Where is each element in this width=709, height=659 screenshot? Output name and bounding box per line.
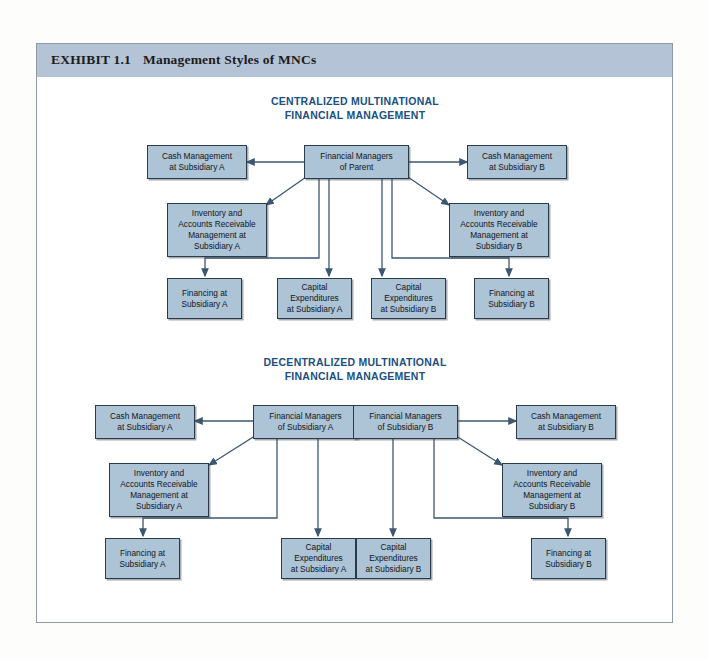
decentralized-section-heading: DECENTRALIZED MULTINATIONAL FINANCIAL MA… [205, 355, 505, 383]
arrow-mgr-b-to-inv-b [453, 434, 502, 465]
node-centralized-cash-management-subsidiary-a[interactable]: Cash Management at Subsidiary A [147, 145, 247, 179]
node-centralized-financing-subsidiary-a[interactable]: Financing at Subsidiary A [167, 278, 242, 319]
node-decentralized-financing-subsidiary-b[interactable]: Financing at Subsidiary B [531, 538, 606, 579]
node-centralized-inventory-ar-subsidiary-b[interactable]: Inventory and Accounts Receivable Manage… [449, 203, 549, 257]
node-decentralized-financial-managers-subsidiary-b[interactable]: Financial Managers of Subsidiary B [353, 405, 458, 439]
node-decentralized-financial-managers-subsidiary-a[interactable]: Financial Managers of Subsidiary A [253, 405, 358, 439]
arrow-parent-to-inv-a [266, 175, 309, 205]
node-decentralized-financing-subsidiary-a[interactable]: Financing at Subsidiary A [105, 538, 180, 579]
exhibit-frame: EXHIBIT 1.1Management Styles of MNCs [36, 43, 673, 623]
arrow-parent-to-inv-b [405, 175, 449, 205]
node-decentralized-cash-management-subsidiary-a[interactable]: Cash Management at Subsidiary A [95, 405, 195, 439]
page-canvas: EXHIBIT 1.1Management Styles of MNCs [0, 0, 709, 659]
node-centralized-financing-subsidiary-b[interactable]: Financing at Subsidiary B [474, 278, 549, 319]
node-decentralized-inventory-ar-subsidiary-a[interactable]: Inventory and Accounts Receivable Manage… [109, 463, 209, 517]
exhibit-title: EXHIBIT 1.1Management Styles of MNCs [51, 52, 316, 68]
arrow-mgr-a-to-inv-a [209, 434, 258, 465]
node-decentralized-cash-management-subsidiary-b[interactable]: Cash Management at Subsidiary B [516, 405, 616, 439]
connector-layer [37, 44, 674, 624]
node-centralized-cash-management-subsidiary-b[interactable]: Cash Management at Subsidiary B [467, 145, 567, 179]
exhibit-title-text: Management Styles of MNCs [143, 52, 316, 67]
node-decentralized-capital-expenditures-subsidiary-b[interactable]: Capital Expenditures at Subsidiary B [356, 538, 431, 579]
exhibit-number: EXHIBIT 1.1 [51, 52, 131, 67]
node-centralized-capital-expenditures-subsidiary-b[interactable]: Capital Expenditures at Subsidiary B [371, 278, 446, 319]
node-centralized-financial-managers-of-parent[interactable]: Financial Managers of Parent [304, 145, 409, 179]
centralized-section-heading: CENTRALIZED MULTINATIONAL FINANCIAL MANA… [205, 94, 505, 122]
node-centralized-inventory-ar-subsidiary-a[interactable]: Inventory and Accounts Receivable Manage… [167, 203, 267, 257]
node-centralized-capital-expenditures-subsidiary-a[interactable]: Capital Expenditures at Subsidiary A [277, 278, 352, 319]
node-decentralized-inventory-ar-subsidiary-b[interactable]: Inventory and Accounts Receivable Manage… [502, 463, 602, 517]
node-decentralized-capital-expenditures-subsidiary-a[interactable]: Capital Expenditures at Subsidiary A [281, 538, 356, 579]
